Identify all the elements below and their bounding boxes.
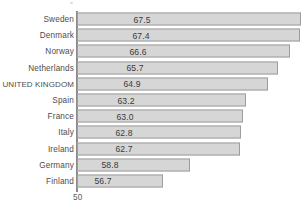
- bar[interactable]: 64.9: [77, 77, 268, 90]
- bar-rows: Sweden 67.5 Denmark 67.4 Norway 66.6 Net…: [0, 11, 307, 189]
- bar-value-label: 65.7: [126, 63, 143, 73]
- bar-row[interactable]: Italy 62.8: [0, 124, 307, 140]
- bar-row[interactable]: Norway 66.6: [0, 43, 307, 59]
- category-label: Netherlands: [28, 63, 74, 72]
- bar-row[interactable]: Finland 56.7: [0, 173, 307, 189]
- bar-value-label: 67.5: [133, 14, 150, 24]
- category-label: Spain: [52, 96, 74, 105]
- bar[interactable]: 62.7: [77, 142, 240, 155]
- category-label: Denmark: [40, 31, 74, 40]
- bar-value-label: 62.8: [115, 127, 132, 137]
- bar-value-label: 66.6: [129, 46, 146, 56]
- category-label: France: [48, 112, 74, 121]
- bar-row[interactable]: Sweden 67.5: [0, 11, 307, 27]
- bar[interactable]: 56.7: [77, 174, 163, 187]
- bar[interactable]: 63.2: [77, 94, 246, 107]
- bar-chart: Sweden 67.5 Denmark 67.4 Norway 66.6 Net…: [0, 0, 307, 222]
- category-label: Norway: [45, 47, 74, 56]
- bar[interactable]: 65.7: [77, 61, 278, 74]
- bar-value-label: 63.0: [116, 111, 133, 121]
- bar[interactable]: 66.6: [77, 45, 290, 58]
- bar-value-label: 62.7: [115, 144, 132, 154]
- bar-value-label: 67.4: [132, 30, 149, 40]
- bar[interactable]: 63.0: [77, 110, 243, 123]
- chart-page: Sweden 67.5 Denmark 67.4 Norway 66.6 Net…: [0, 0, 307, 222]
- category-label-united-kingdom: UNITED KINGDOM: [2, 79, 74, 88]
- category-label: Ireland: [48, 144, 74, 153]
- bar-value-label: 64.9: [123, 79, 140, 89]
- bar-row[interactable]: Germany 58.8: [0, 157, 307, 173]
- bar-row[interactable]: UNITED KINGDOM 64.9: [0, 76, 307, 92]
- bar[interactable]: 67.4: [77, 29, 300, 42]
- axis-tick-label-50: 50: [73, 193, 83, 202]
- category-label: Sweden: [44, 15, 75, 24]
- bar-value-label: 63.2: [117, 95, 134, 105]
- bar-value-label: 56.7: [94, 176, 111, 186]
- bar[interactable]: 58.8: [77, 158, 190, 171]
- category-label: Germany: [39, 160, 74, 169]
- bar-row[interactable]: Netherlands 65.7: [0, 60, 307, 76]
- bar-row[interactable]: France 63.0: [0, 108, 307, 124]
- bar-row[interactable]: Denmark 67.4: [0, 27, 307, 43]
- bar[interactable]: 62.8: [77, 126, 241, 139]
- bar-row[interactable]: Ireland 62.7: [0, 141, 307, 157]
- bar[interactable]: 67.5: [77, 13, 301, 26]
- bar-row[interactable]: Spain 63.2: [0, 92, 307, 108]
- category-label: Italy: [58, 128, 74, 137]
- category-label: Finland: [46, 176, 74, 185]
- bar-value-label: 58.8: [101, 160, 118, 170]
